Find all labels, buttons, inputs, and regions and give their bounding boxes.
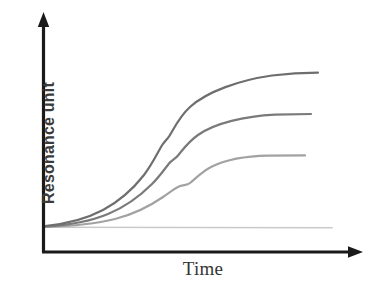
series-curve-mid [45,114,311,227]
x-axis-arrow-icon [348,246,363,257]
series-baseline-control [44,227,332,228]
series-curve-low [45,155,305,227]
sensorgram-figure: Resonance unit Time [0,0,389,286]
y-axis-arrow-icon [38,12,49,27]
plot-canvas [0,0,389,286]
series-curve-high [45,73,318,226]
